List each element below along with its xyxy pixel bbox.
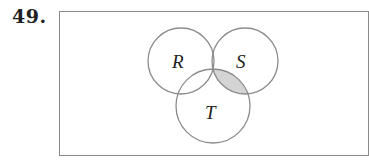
label-s: S	[236, 51, 246, 72]
label-t: T	[205, 102, 217, 123]
label-r: R	[171, 51, 184, 72]
